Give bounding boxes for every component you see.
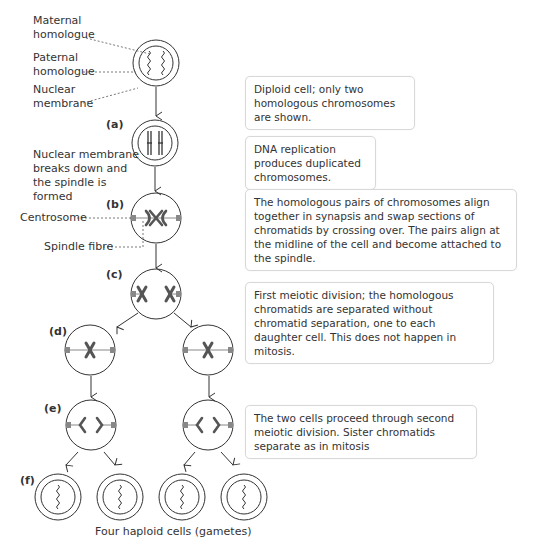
stage-e-label: (e) (44, 402, 62, 415)
stage-a-label: (a) (106, 118, 123, 131)
description-box-diploid: Diploid cell; only two homologous chromo… (245, 76, 415, 130)
stage-c-label: (c) (106, 268, 123, 281)
stage-f-label: (f) (20, 474, 35, 487)
centrosome-icon (176, 291, 181, 297)
gametes-caption: Four haploid cells (gametes) (95, 525, 251, 538)
paternal-chromosome-icon (162, 51, 165, 75)
gamete-cells (35, 474, 267, 520)
description-box-synapsis: The homologous pairs of chromosomes alig… (245, 189, 517, 271)
cell-d-right (183, 325, 233, 375)
cell-c (131, 269, 181, 319)
centrosome-icon (131, 291, 136, 297)
spindle-fibre-label: Spindle fibre (44, 240, 113, 254)
centrosome-icon (131, 215, 136, 221)
stage-d-label: (d) (49, 325, 67, 338)
crossing-over-chromosomes-icon (146, 211, 166, 225)
centrosome-label: Centrosome (20, 211, 87, 225)
spindle-formed-label: Nuclear membranebreaks down and the spin… (33, 148, 139, 204)
duplicated-chromosomes-icon (147, 131, 163, 155)
description-box-first-division: First meiotic division; the homologous c… (245, 282, 494, 364)
description-box-second-division: The two cells proceed through second mei… (245, 405, 477, 459)
nuclear-membrane-label: Nuclearmembrane (33, 83, 93, 111)
stage-b-label: (b) (106, 198, 124, 211)
centrosome-icon (176, 215, 181, 221)
maternal-homologue-label: Maternalhomologue (33, 14, 95, 42)
cell-e-left (66, 400, 116, 450)
cell-e-right (183, 400, 233, 450)
description-box-replication: DNA replication produces duplicated chro… (245, 136, 376, 190)
chromosome-icon (138, 287, 174, 301)
diploid-cell (133, 40, 179, 86)
maternal-chromosome-icon (148, 51, 151, 75)
cell-d-left (65, 325, 115, 375)
paternal-homologue-label: Paternalhomologue (33, 51, 95, 79)
